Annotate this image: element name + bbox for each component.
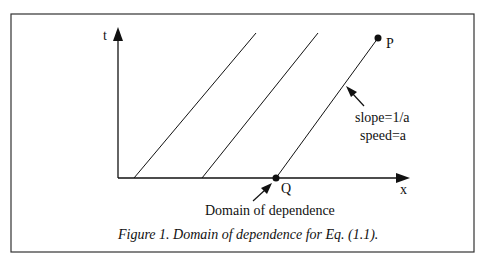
t-axis: t bbox=[103, 27, 123, 178]
characteristic-line-2 bbox=[202, 33, 318, 178]
characteristic-line-1 bbox=[134, 33, 256, 178]
x-axis-label: x bbox=[400, 182, 407, 197]
characteristic-line-through-p bbox=[276, 38, 378, 178]
point-q-label: Q bbox=[281, 181, 291, 196]
domain-of-dependence-figure: t x P Q slope=1/a speed=a Domain of depe… bbox=[0, 0, 485, 266]
figure-caption: Figure 1. Domain of dependence for Eq. (… bbox=[117, 227, 378, 243]
domain-annotation: Domain of dependence bbox=[205, 183, 335, 218]
slope-arrowhead-icon bbox=[346, 86, 357, 97]
domain-label: Domain of dependence bbox=[205, 203, 335, 218]
t-axis-arrowhead-icon bbox=[113, 27, 123, 41]
t-axis-label: t bbox=[103, 28, 107, 43]
x-axis: x bbox=[118, 173, 410, 197]
point-p-marker bbox=[375, 35, 382, 42]
slope-annotation: slope=1/a speed=a bbox=[346, 86, 410, 143]
point-q-marker bbox=[273, 175, 280, 182]
slope-label: slope=1/a bbox=[355, 110, 410, 125]
speed-label: speed=a bbox=[360, 128, 407, 143]
point-p-label: P bbox=[386, 36, 394, 51]
